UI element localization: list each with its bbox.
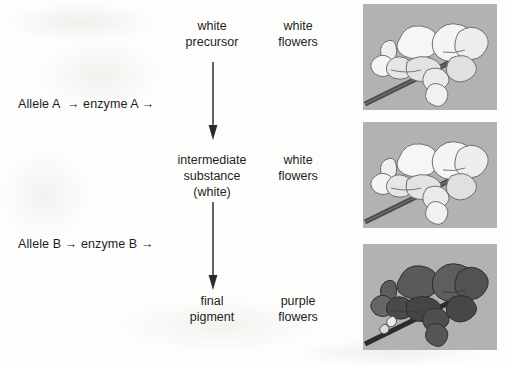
allele-b-label: Allele B → enzyme B →	[18, 237, 153, 251]
allele-a-label: Allele A → enzyme A →	[18, 97, 154, 111]
phenotype-label-2: white flowers	[243, 152, 353, 184]
phenotype-label-3: purple flowers	[243, 293, 353, 325]
phenotype-line: purple	[243, 293, 353, 309]
diagram-canvas: Allele A → enzyme A → Allele B → enzyme …	[0, 0, 510, 365]
flower-photo-white-2	[363, 122, 497, 228]
arrow-down-intermediate-to-pigment	[205, 202, 221, 290]
phenotype-line: flowers	[243, 309, 353, 325]
flower-photo-purple	[363, 244, 497, 350]
arrow-down-precursor-to-intermediate	[205, 62, 221, 140]
phenotype-line: white	[243, 18, 353, 34]
phenotype-line: flowers	[243, 34, 353, 50]
scan-artifact	[6, 2, 156, 42]
phenotype-label-1: white flowers	[243, 18, 353, 50]
phenotype-line: flowers	[243, 168, 353, 184]
substance-line: (white)	[137, 184, 287, 200]
scan-artifact	[0, 150, 90, 240]
phenotype-line: white	[243, 152, 353, 168]
flower-photo-white-1	[363, 4, 497, 110]
